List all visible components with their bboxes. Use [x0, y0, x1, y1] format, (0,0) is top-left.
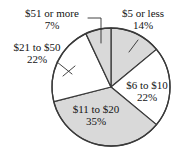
slice-label-6-to-10-text: $6 to $10 — [126, 79, 168, 91]
slice-label-21-to-50-text: $21 to $50 — [13, 41, 60, 53]
slice-label-51-or-more: $51 or more 7% — [14, 8, 90, 32]
slice-label-51-or-more-text: $51 or more — [25, 7, 79, 19]
slice-label-5-or-less-text: $5 or less — [122, 7, 164, 19]
slice-label-51-or-more-percent: 7% — [14, 20, 90, 32]
slice-label-11-to-20: $11 to $20 35% — [58, 104, 134, 128]
slice-label-6-to-10-percent: 22% — [116, 92, 178, 104]
slice-label-5-or-less: $5 or less 14% — [108, 8, 178, 32]
pie-chart-figure: $51 or more 7% $21 to $50 22% $5 or less… — [0, 0, 181, 160]
slice-label-11-to-20-text: $11 to $20 — [73, 103, 120, 115]
slice-label-6-to-10: $6 to $10 22% — [116, 80, 178, 104]
slice-label-21-to-50: $21 to $50 22% — [1, 42, 73, 66]
slice-label-21-to-50-percent: 22% — [1, 54, 73, 66]
slice-label-11-to-20-percent: 35% — [58, 116, 134, 128]
slice-label-5-or-less-percent: 14% — [108, 20, 178, 32]
